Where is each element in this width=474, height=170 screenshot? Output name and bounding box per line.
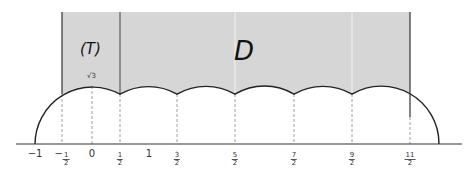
tick-fraction: 92 [349,152,355,167]
tick-fraction: 12 [117,152,123,167]
region-label-t: (T) [80,40,101,58]
axis-tick-mhalf: −12 [55,148,70,167]
tick-denominator: 2 [292,160,296,167]
tick-denominator: 2 [118,160,122,167]
tick-denominator: 2 [175,160,179,167]
arc-curve [35,86,439,144]
tick-fraction: 52 [232,152,238,167]
tick-fraction: 72 [291,152,297,167]
tick-fraction: 32 [174,152,180,167]
arc-label: √3 [87,72,96,80]
axis-tick-one: 1 [146,148,152,159]
axis-tick-eleven-halves: 112 [405,148,416,167]
tick-denominator: 2 [408,160,412,167]
tick-text: 1 [146,148,152,159]
tick-text: − [55,148,63,159]
tick-text: 0 [89,148,95,159]
axis-tick-seven-halves: 72 [291,148,297,167]
axis-tick-zero: 0 [89,148,95,159]
axis-tick-nine-halves: 92 [349,148,355,167]
axis-tick-three-halves: 32 [174,148,180,167]
tick-denominator: 2 [64,160,68,167]
diagram-canvas [0,0,474,170]
axis-tick-m1: −1 [28,148,43,159]
region-label-d: D [234,36,254,66]
axis-tick-five-halves: 52 [232,148,238,167]
axis-tick-half: 12 [117,148,123,167]
tick-fraction: 112 [405,152,416,167]
tick-fraction: 12 [63,152,69,167]
tick-text: −1 [28,148,43,159]
tick-denominator: 2 [233,160,237,167]
tick-denominator: 2 [350,160,354,167]
dashed-guides [62,86,410,144]
